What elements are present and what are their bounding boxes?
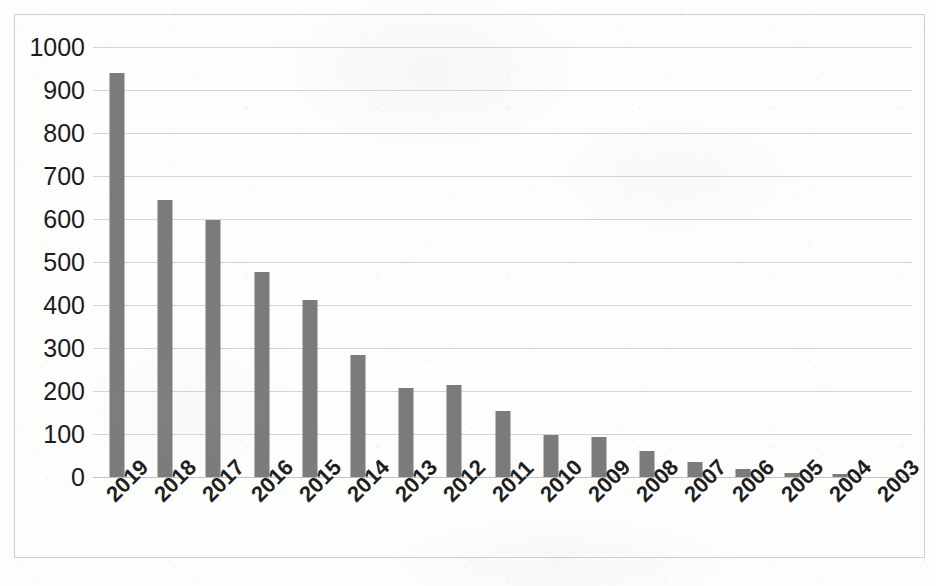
y-axis-tick-label: 600 (13, 207, 85, 232)
y-axis-tick-label: 800 (13, 121, 85, 146)
y-axis-tick-label: 500 (13, 250, 85, 275)
bar (110, 73, 125, 477)
y-axis-tick-labels: 01002003004005006007008009001000 (9, 47, 85, 477)
bar (158, 200, 173, 477)
bar-series-group (93, 47, 912, 477)
chart-screenshot: 01002003004005006007008009001000 2019201… (0, 0, 936, 586)
bar (447, 385, 462, 477)
bar (302, 300, 317, 477)
y-axis-tick-label: 700 (13, 164, 85, 189)
y-axis-tick-label: 1000 (13, 35, 85, 60)
y-axis-tick-label: 200 (13, 379, 85, 404)
y-axis-tick-label: 900 (13, 78, 85, 103)
bar (206, 220, 221, 477)
x-axis-tick-labels: 2019201820172016201520142013201220112010… (93, 477, 912, 557)
bar (350, 355, 365, 477)
y-axis-tick-label: 300 (13, 336, 85, 361)
y-axis-tick-label: 400 (13, 293, 85, 318)
bar (254, 272, 269, 477)
bar (399, 388, 414, 477)
y-axis-tick-label: 100 (13, 422, 85, 447)
y-axis-tick-label: 0 (13, 465, 85, 490)
